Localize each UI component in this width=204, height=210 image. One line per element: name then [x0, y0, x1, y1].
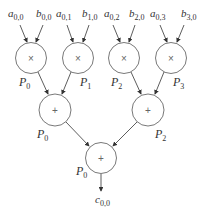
- label-p0-add: P0: [36, 127, 48, 143]
- multiply-node-0: ×: [16, 43, 47, 74]
- add-node-right: +: [132, 94, 164, 126]
- multiply-node-1: ×: [63, 43, 94, 74]
- svg-text:×: ×: [121, 53, 127, 64]
- multiply-node-2: ×: [109, 43, 140, 74]
- svg-text:×: ×: [168, 53, 174, 64]
- svg-text:×: ×: [75, 53, 81, 64]
- label-p2-mult: P2: [110, 75, 122, 91]
- input-b00: b0,0: [36, 7, 52, 22]
- svg-text:+: +: [52, 105, 58, 116]
- svg-text:+: +: [98, 153, 104, 164]
- label-p1-mult: P1: [79, 75, 91, 91]
- add-node-left: +: [39, 94, 71, 126]
- label-p0-root: P0: [75, 164, 87, 180]
- input-a03: a0,3: [150, 7, 166, 22]
- input-arrows: [20, 25, 184, 42]
- input-b30: b3,0: [181, 7, 197, 22]
- label-p3-mult: P3: [172, 75, 184, 91]
- svg-text:×: ×: [28, 53, 34, 64]
- svg-text:+: +: [145, 105, 151, 116]
- input-a01: a0,1: [56, 7, 72, 22]
- multiply-node-3: ×: [156, 43, 187, 74]
- label-p0-mult: P0: [18, 75, 30, 91]
- label-p2-add: P2: [154, 127, 166, 143]
- reduction-tree-diagram: a0,0 b0,0 a0,1 b1,0 a0,2 b2,0 a0,3 b3,0 …: [0, 0, 204, 210]
- input-b10: b1,0: [82, 7, 98, 22]
- input-a02: a0,2: [104, 7, 120, 22]
- output-c00: c0,0: [95, 193, 110, 208]
- add-node-root: +: [86, 143, 117, 174]
- input-b20: b2,0: [129, 7, 145, 22]
- level1-arrows: [38, 72, 164, 94]
- input-a00: a0,0: [8, 7, 24, 22]
